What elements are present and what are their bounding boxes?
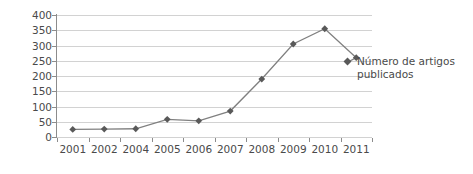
x-tick-label: 2007 <box>217 144 244 155</box>
x-tick-mark <box>215 138 216 142</box>
x-tick-mark <box>89 138 90 142</box>
data-point-marker <box>101 126 108 133</box>
x-tick-mark <box>246 138 247 142</box>
x-tick-mark <box>57 138 58 142</box>
x-tick-label: 2001 <box>59 144 86 155</box>
x-tick-label: 2008 <box>248 144 275 155</box>
x-tick-label: 2004 <box>122 144 149 155</box>
legend-marker-icon <box>343 57 352 66</box>
x-tick-label: 2006 <box>185 144 212 155</box>
line-chart: 050100150200250300350400 Número de artig… <box>0 0 473 174</box>
data-point-marker <box>164 116 171 123</box>
x-tick-mark <box>152 138 153 142</box>
x-tick-mark <box>120 138 121 142</box>
series-line <box>73 29 357 130</box>
data-point-marker <box>195 117 202 124</box>
x-tick-mark <box>341 138 342 142</box>
x-tick-label: 2009 <box>280 144 307 155</box>
x-tick-mark <box>183 138 184 142</box>
x-tick-mark <box>278 138 279 142</box>
x-tick-mark <box>372 138 373 142</box>
legend-label: Número de artigos publicados <box>357 55 473 80</box>
x-tick-label: 2010 <box>311 144 338 155</box>
legend: Número de artigos publicados <box>343 55 473 80</box>
data-point-marker <box>132 125 139 132</box>
data-point-marker <box>69 126 76 133</box>
x-tick-mark <box>309 138 310 142</box>
x-tick-label: 2005 <box>154 144 181 155</box>
x-tick-label: 2002 <box>91 144 118 155</box>
x-tick-label: 2011 <box>343 144 370 155</box>
